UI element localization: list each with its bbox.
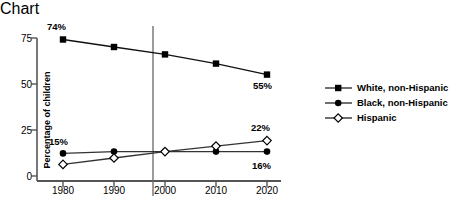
data-point-hispanic — [110, 154, 118, 162]
chart-figure: Percentage of children 75 50 25 0 1980 1… — [0, 18, 451, 203]
plot-area — [0, 18, 451, 203]
data-point-black — [60, 150, 67, 157]
data-point-white — [162, 51, 168, 57]
legend-marker-hispanic — [325, 114, 352, 122]
legend-label-black: Black, non-Hispanic — [357, 97, 448, 108]
data-point-white — [213, 60, 219, 66]
data-point-white — [111, 44, 117, 50]
data-point-hispanic — [161, 147, 169, 155]
legend-marker-white — [325, 85, 352, 91]
legend-label-white: White, non-Hispanic — [357, 82, 448, 93]
legend-marker-black — [325, 100, 352, 107]
data-point-white — [60, 36, 66, 42]
data-point-white — [264, 71, 270, 77]
data-point-hispanic — [263, 136, 271, 144]
legend-label-hispanic: Hispanic — [357, 112, 397, 123]
data-point-hispanic — [59, 160, 67, 168]
data-point-hispanic — [212, 142, 220, 150]
data-point-black — [264, 148, 271, 155]
